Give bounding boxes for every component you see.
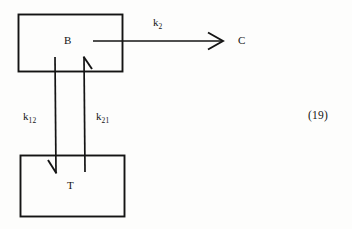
compartment-label-b: B bbox=[64, 35, 72, 46]
rate-subscript-k12: 12 bbox=[29, 116, 37, 125]
rate-base-k21: k bbox=[96, 110, 102, 122]
equation-number: (19) bbox=[308, 110, 328, 122]
rate-label-k2: k2 bbox=[153, 17, 163, 28]
diagram-svg bbox=[0, 0, 352, 229]
rate-base-k12: k bbox=[23, 110, 29, 122]
rate-subscript-k2: 2 bbox=[159, 22, 163, 31]
compartment-label-t: T bbox=[67, 180, 74, 191]
rate-label-k12: k12 bbox=[23, 111, 37, 122]
rate-label-k21: k21 bbox=[96, 111, 110, 122]
figure-canvas: B T C k2 k12 k21 (19) bbox=[0, 0, 352, 229]
rate-subscript-k21: 21 bbox=[102, 116, 110, 125]
species-label-c: C bbox=[238, 35, 246, 46]
rate-base-k2: k bbox=[153, 16, 159, 28]
arrow-b-to-c bbox=[93, 33, 223, 50]
